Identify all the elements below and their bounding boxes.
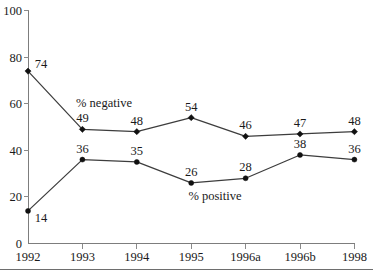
- value-label: 54: [185, 100, 198, 114]
- series-value-labels-positive: 14363526283836: [35, 137, 361, 225]
- x-tick-label: 1993: [70, 250, 95, 264]
- value-label: 36: [348, 142, 361, 156]
- value-label: 47: [294, 116, 307, 130]
- value-label: 28: [239, 160, 252, 174]
- x-axis-tick-labels: 1992 1993 1994 1995 1996a 1996b 1998: [16, 250, 367, 264]
- value-label: 48: [348, 114, 361, 128]
- y-tick-label: 0: [16, 237, 22, 251]
- chart-plot-area: 100 80 60 40 20 0 1992 1993 1994 1995 19…: [0, 0, 373, 273]
- line-chart: 100 80 60 40 20 0 1992 1993 1994 1995 19…: [0, 0, 373, 273]
- value-label: 48: [131, 114, 144, 128]
- y-tick-label: 80: [10, 51, 23, 65]
- y-tick-label: 20: [10, 190, 23, 204]
- x-tick-label: 1992: [16, 250, 41, 264]
- x-tick-label: 1998: [342, 250, 367, 264]
- series-annotation-negative: % negative: [76, 96, 132, 110]
- series-annotation-positive: % positive: [188, 189, 242, 203]
- value-label: 49: [76, 111, 89, 125]
- x-axis-ticks: [82, 244, 354, 249]
- value-label: 14: [35, 211, 48, 225]
- y-tick-label: 40: [10, 144, 23, 158]
- y-axis-ticks: [24, 11, 29, 197]
- x-tick-label: 1995: [179, 250, 204, 264]
- y-tick-label: 100: [3, 4, 22, 18]
- y-axis-tick-labels: 100 80 60 40 20 0: [3, 4, 22, 251]
- value-label: 26: [185, 165, 198, 179]
- value-label: 74: [35, 57, 48, 71]
- series-value-labels-negative: 74494854464748: [35, 57, 361, 132]
- value-label: 35: [131, 144, 144, 158]
- x-tick-label: 1996b: [284, 250, 315, 264]
- y-tick-label: 60: [10, 97, 23, 111]
- x-tick-label: 1994: [124, 250, 150, 264]
- series-markers-positive: [26, 152, 357, 213]
- value-label: 38: [294, 137, 307, 151]
- x-tick-label: 1996a: [230, 250, 261, 264]
- value-label: 36: [76, 142, 89, 156]
- bottom-divider-rule: [0, 269, 373, 270]
- value-label: 46: [239, 118, 252, 132]
